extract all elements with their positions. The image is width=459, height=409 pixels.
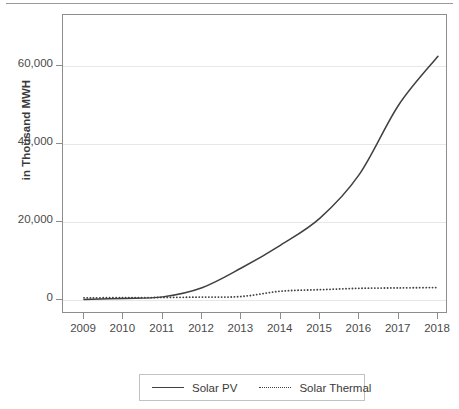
x-tick-label: 2015 (297, 322, 341, 334)
legend-label-solar-pv: Solar PV (192, 382, 237, 394)
x-tick-label: 2017 (376, 322, 420, 334)
x-tick-mark (398, 313, 399, 319)
legend-item-solar-pv: Solar PV (152, 382, 237, 394)
y-tick-label: 0 (47, 291, 53, 303)
x-tick-label: 2012 (179, 322, 223, 334)
x-tick-mark (319, 313, 320, 319)
top-divider-rule (6, 3, 453, 4)
legend-line-dotted-icon (259, 383, 291, 393)
x-tick-mark (358, 313, 359, 319)
series-line-solar-thermal (84, 288, 438, 298)
x-tick-label: 2009 (61, 322, 105, 334)
x-tick-mark (83, 313, 84, 319)
x-tick-mark (437, 313, 438, 319)
y-tick-label: 60,000 (18, 57, 53, 69)
legend-line-solid-icon (152, 383, 184, 393)
plot-area (62, 14, 447, 313)
x-tick-label: 2011 (140, 322, 184, 334)
x-tick-label: 2016 (336, 322, 380, 334)
chart-figure: in Thousand MWH 020,00040,00060,000 2009… (0, 0, 459, 409)
series-line-solar-pv (84, 56, 438, 299)
x-tick-mark (240, 313, 241, 319)
data-series-layer (63, 15, 448, 314)
legend: Solar PV Solar Thermal (139, 374, 365, 401)
y-axis-title: in Thousand MWH (20, 60, 32, 200)
x-tick-label: 2014 (258, 322, 302, 334)
y-tick-label: 20,000 (18, 213, 53, 225)
legend-item-solar-thermal: Solar Thermal (259, 382, 371, 394)
x-tick-mark (122, 313, 123, 319)
x-tick-label: 2010 (100, 322, 144, 334)
x-tick-mark (162, 313, 163, 319)
legend-label-solar-thermal: Solar Thermal (299, 382, 371, 394)
x-tick-label: 2013 (218, 322, 262, 334)
x-tick-mark (201, 313, 202, 319)
x-tick-mark (280, 313, 281, 319)
x-tick-label: 2018 (415, 322, 459, 334)
y-tick-label: 40,000 (18, 135, 53, 147)
